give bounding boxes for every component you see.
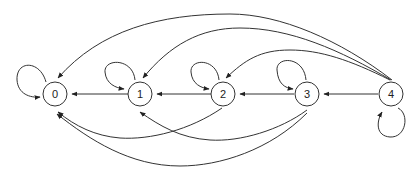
node-label-2: 2 — [220, 88, 226, 100]
node-label-4: 4 — [388, 88, 394, 100]
edge-3-to-1 — [140, 110, 307, 140]
node-label-3: 3 — [304, 88, 310, 100]
state-diagram: 0 1 2 3 4 — [0, 0, 419, 175]
state-node-1: 1 — [128, 82, 152, 106]
self-loop-1 — [105, 62, 135, 89]
state-node-0: 0 — [43, 82, 67, 106]
edge-3-to-0 — [57, 113, 307, 166]
self-loop-0 — [17, 65, 46, 97]
state-node-3: 3 — [295, 82, 319, 106]
node-label-1: 1 — [137, 88, 143, 100]
edge-4-to-0 — [58, 14, 392, 80]
state-node-4: 4 — [379, 82, 403, 106]
edge-4-to-2 — [226, 50, 390, 80]
self-loop-4 — [378, 108, 405, 137]
node-label-0: 0 — [52, 88, 58, 100]
state-node-2: 2 — [211, 82, 235, 106]
